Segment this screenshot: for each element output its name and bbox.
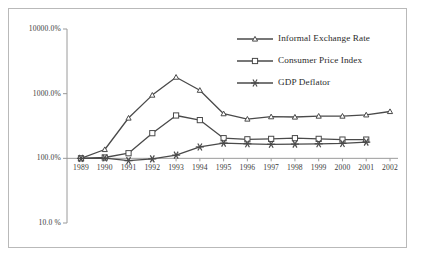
chart-plot-area	[9, 9, 408, 249]
chart-legend-marks	[237, 36, 273, 86]
x-axis-label-1991: 1991	[116, 163, 142, 172]
legend-item-1: Consumer Price Index	[278, 55, 362, 65]
x-axis-label-2002: 2002	[377, 163, 403, 172]
x-axis-label-1990: 1990	[92, 163, 118, 172]
x-axis-label-1992: 1992	[139, 163, 165, 172]
x-axis-label-1997: 1997	[258, 163, 284, 172]
x-axis-label-1995: 1995	[211, 163, 237, 172]
x-axis-label-1998: 1998	[282, 163, 308, 172]
chart-figure: 10000.0%1000.0%100.0%10.0 % 198919901991…	[0, 0, 421, 265]
y-axis-label-2: 100.0%	[9, 153, 61, 162]
x-axis-label-1989: 1989	[68, 163, 94, 172]
legend-item-0: Informal Exchange Rate	[278, 33, 370, 43]
y-axis-label-0: 10000.0%	[9, 24, 61, 33]
chart-series-group	[77, 75, 393, 165]
y-axis-label-3: 10.0 %	[9, 218, 61, 227]
x-axis-label-1993: 1993	[163, 163, 189, 172]
legend-item-2: GDP Deflator	[278, 77, 330, 87]
x-axis-label-2001: 2001	[353, 163, 379, 172]
chart-frame: 10000.0%1000.0%100.0%10.0 % 198919901991…	[8, 8, 407, 248]
x-axis-label-2000: 2000	[329, 163, 355, 172]
x-axis-label-1999: 1999	[306, 163, 332, 172]
x-axis-label-1994: 1994	[187, 163, 213, 172]
x-axis-label-1996: 1996	[234, 163, 260, 172]
y-axis-label-1: 1000.0%	[9, 89, 61, 98]
